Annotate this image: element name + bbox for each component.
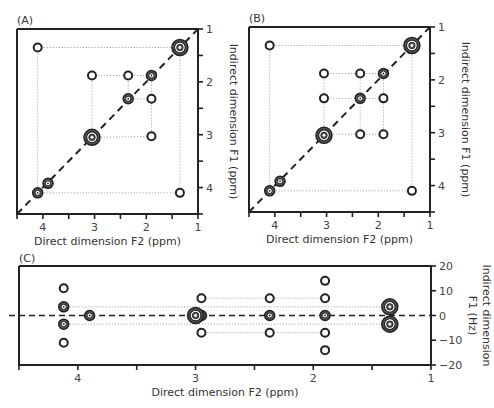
- cross-peak: [321, 346, 329, 354]
- cross-peak: [321, 329, 329, 337]
- peak-center: [127, 98, 129, 100]
- cross-peak: [379, 94, 387, 102]
- y-tick-label: −20: [439, 359, 462, 372]
- peak-center: [37, 192, 39, 194]
- y-tick-label: 0: [439, 310, 446, 323]
- panel-label: (A): [17, 14, 33, 27]
- cross-peak: [34, 44, 42, 52]
- panel-a: (A)4321Direct dimension F2 (ppm)1234Indi…: [16, 14, 240, 248]
- peak-center: [269, 190, 271, 192]
- cross-peak: [266, 329, 274, 337]
- x-tick-label: 3: [91, 221, 98, 234]
- cross-peak: [321, 277, 329, 285]
- y-axis-title: Indirect dimension F1 (ppm): [459, 42, 472, 198]
- y-tick-label: 2: [438, 74, 445, 87]
- x-axis-title: Direct dimension F2 (ppm): [266, 233, 413, 246]
- panel-label: (C): [19, 252, 35, 265]
- cross-peak: [320, 70, 328, 78]
- peak-center: [388, 323, 391, 326]
- peak-center: [388, 305, 391, 308]
- cross-peak: [176, 189, 184, 197]
- cross-peak: [124, 72, 132, 80]
- guide-line: [92, 136, 151, 137]
- panel-c: (C)4321Direct dimension F2 (ppm)20100−10…: [9, 252, 493, 399]
- cross-peak: [356, 130, 364, 138]
- peak-center: [89, 315, 91, 317]
- cross-peak: [88, 72, 96, 80]
- peak-center: [359, 97, 361, 99]
- x-tick-label: 3: [323, 219, 330, 232]
- peak-center: [151, 75, 153, 77]
- cross-peak: [60, 339, 68, 347]
- x-tick-label: 1: [428, 372, 435, 385]
- y-tick-label: −10: [439, 334, 462, 347]
- cross-peak: [147, 132, 155, 140]
- cross-peak: [147, 95, 155, 103]
- y-tick-label: 4: [206, 182, 213, 195]
- x-tick-label: 1: [427, 219, 434, 232]
- cross-peak: [320, 94, 328, 102]
- cross-peak: [197, 329, 205, 337]
- peak-center: [324, 315, 326, 317]
- x-tick-label: 2: [310, 372, 317, 385]
- peak-center: [47, 182, 49, 184]
- panel-label: (B): [249, 12, 265, 25]
- y-tick-label: 4: [438, 180, 445, 193]
- y-tick-label: 3: [438, 127, 445, 140]
- x-axis-title: Direct dimension F2 (ppm): [34, 235, 181, 248]
- cross-peak: [197, 294, 205, 302]
- x-tick-label: 4: [39, 221, 46, 234]
- peak-center: [269, 315, 271, 317]
- y-tick-label: 3: [206, 129, 213, 142]
- y-axis-title: F1 (Hz): [466, 296, 479, 335]
- x-tick-label: 4: [74, 372, 81, 385]
- y-axis-title: Indirect dimension F1 (ppm): [227, 44, 240, 200]
- cross-peak: [356, 70, 364, 78]
- peak-center: [194, 314, 197, 317]
- peak-center: [63, 306, 65, 308]
- y-axis-title: Indirect dimension: [480, 264, 493, 366]
- cross-peak: [60, 284, 68, 292]
- x-tick-label: 1: [195, 221, 202, 234]
- y-tick-label: 1: [206, 23, 213, 36]
- x-tick-label: 2: [143, 221, 150, 234]
- peak-center: [323, 134, 326, 137]
- cross-peak: [379, 130, 387, 138]
- cross-peak: [266, 294, 274, 302]
- x-tick-label: 2: [375, 219, 382, 232]
- cross-peak: [321, 294, 329, 302]
- peak-center: [91, 136, 94, 139]
- x-tick-label: 4: [271, 219, 278, 232]
- nmr-figure: (A)4321Direct dimension F2 (ppm)1234Indi…: [0, 0, 494, 408]
- x-tick-label: 3: [192, 372, 199, 385]
- cross-peak: [266, 42, 274, 50]
- peak-center: [411, 44, 414, 47]
- y-tick-label: 2: [206, 76, 213, 89]
- cross-peak: [408, 187, 416, 195]
- y-tick-label: 10: [439, 285, 453, 298]
- peak-center: [279, 180, 281, 182]
- y-tick-label: 1: [438, 21, 445, 34]
- x-axis-title: Direct dimension F2 (ppm): [152, 386, 299, 399]
- peak-center: [383, 73, 385, 75]
- y-tick-label: 20: [439, 260, 453, 273]
- peak-center: [179, 46, 182, 49]
- panel-b: (B)4321Direct dimension F2 (ppm)1234Indi…: [248, 12, 472, 246]
- peak-center: [63, 323, 65, 325]
